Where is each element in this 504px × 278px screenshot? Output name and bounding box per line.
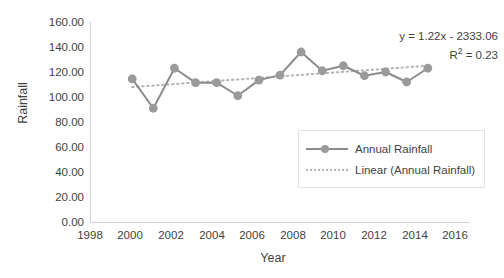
data-point-marker bbox=[402, 78, 411, 87]
x-axis-tick-label: 2012 bbox=[361, 230, 387, 242]
trendline-equation-text: y = 1.22x - 2333.06 bbox=[399, 28, 498, 45]
legend-item-label: Annual Rainfall bbox=[355, 143, 432, 155]
data-point-marker bbox=[360, 71, 369, 80]
r-squared-text: R2 = 0.23 bbox=[399, 45, 498, 64]
data-point-marker bbox=[276, 71, 285, 80]
legend-item-linear-trend[interactable]: Linear (Annual Rainfall) bbox=[306, 159, 475, 180]
legend-line-marker-icon bbox=[306, 143, 348, 155]
data-point-marker bbox=[339, 61, 348, 70]
x-axis-title: Year bbox=[90, 251, 456, 265]
data-point-marker bbox=[254, 76, 263, 85]
data-point-marker bbox=[381, 68, 390, 77]
trendline-equation-annotation: y = 1.22x - 2333.06 R2 = 0.23 bbox=[399, 28, 498, 63]
x-axis-tick-label: 2000 bbox=[117, 230, 143, 242]
legend-item-annual-rainfall[interactable]: Annual Rainfall bbox=[306, 138, 475, 159]
data-point-marker bbox=[233, 91, 242, 100]
data-point-marker bbox=[212, 78, 221, 87]
x-axis-tick-label: 2002 bbox=[158, 230, 184, 242]
data-point-marker bbox=[128, 74, 137, 83]
x-axis-tick-label: 2008 bbox=[280, 230, 306, 242]
data-point-marker bbox=[170, 64, 179, 73]
x-axis-tick-label: 2014 bbox=[402, 230, 428, 242]
x-axis-tick-label: 2006 bbox=[239, 230, 265, 242]
x-axis-tick-label: 2016 bbox=[442, 230, 468, 242]
legend-dotted-line-icon bbox=[306, 164, 348, 176]
r-squared-value: = 0.23 bbox=[463, 49, 499, 61]
data-point-marker bbox=[318, 66, 327, 75]
data-point-marker bbox=[423, 64, 432, 73]
x-axis-tick-label: 1998 bbox=[77, 230, 103, 242]
r-squared-prefix: R bbox=[449, 49, 457, 61]
data-point-marker bbox=[149, 104, 158, 113]
chart-legend: Annual Rainfall Linear (Annual Rainfall) bbox=[298, 130, 485, 188]
series-line-annual-rainfall bbox=[132, 52, 428, 108]
x-axis-tick-label: 2010 bbox=[320, 230, 346, 242]
legend-item-label: Linear (Annual Rainfall) bbox=[355, 164, 475, 176]
data-point-marker bbox=[297, 48, 306, 57]
data-point-marker bbox=[191, 78, 200, 87]
rainfall-line-chart: 160.00 140.00 120.00 100.00 80.00 60.00 … bbox=[0, 0, 504, 278]
x-axis-tick-label: 2004 bbox=[199, 230, 225, 242]
series-markers bbox=[128, 48, 432, 113]
